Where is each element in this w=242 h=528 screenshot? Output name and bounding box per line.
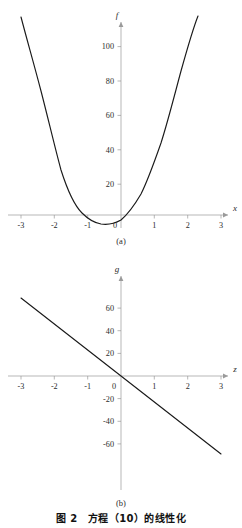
chart-a-svg: -3 -2 -1 0 1 2 3 20 40 60 80 100 x f bbox=[0, 0, 242, 232]
chart-a-xlabel: x bbox=[232, 203, 237, 213]
chart-a-y-axis-arrow bbox=[119, 22, 124, 27]
chart-b-ylabel: g bbox=[115, 264, 120, 274]
chart-b-x-axis-arrow bbox=[223, 374, 228, 379]
chart-b-origin-label: 0 bbox=[112, 382, 116, 391]
chart-a-yticklabel: 40 bbox=[106, 146, 114, 155]
figure-caption: 图 2 方程（10）的线性化 bbox=[0, 510, 242, 525]
chart-a-xticklabel: 2 bbox=[186, 221, 190, 230]
chart-a-yticklabel: 20 bbox=[106, 180, 114, 189]
chart-a-xticklabel: -3 bbox=[18, 221, 25, 230]
chart-b-y-axis-arrow bbox=[119, 276, 124, 281]
chart-a-nonlinear-function: -3 -2 -1 0 1 2 3 20 40 60 80 100 x f bbox=[0, 0, 242, 232]
chart-b-xticklabel: -3 bbox=[18, 382, 25, 391]
chart-b-xticklabel: -2 bbox=[51, 382, 58, 391]
chart-b-yticklabel: -60 bbox=[103, 440, 114, 449]
chart-a-yticklabel: 100 bbox=[102, 42, 114, 51]
chart-a-xticklabel: -1 bbox=[84, 221, 91, 230]
chart-a-yticklabel: 80 bbox=[106, 77, 114, 86]
chart-b-xticklabel: 1 bbox=[152, 382, 156, 391]
chart-b-yticklabel: 40 bbox=[106, 327, 114, 336]
chart-a-xticklabel: 3 bbox=[219, 221, 223, 230]
chart-b-linearized-function: -3 -2 -1 1 2 3 0 60 40 20 -20 -40 -60 z … bbox=[0, 262, 242, 494]
chart-b-xticklabel: 3 bbox=[219, 382, 223, 391]
chart-b-xlabel: z bbox=[232, 364, 237, 374]
subcaption-a: (a) bbox=[0, 236, 242, 246]
chart-b-yticklabel: 20 bbox=[106, 349, 114, 358]
chart-a-xticklabel: -2 bbox=[51, 221, 58, 230]
chart-a-yticklabel: 60 bbox=[106, 111, 114, 120]
chart-b-xticklabel: 2 bbox=[186, 382, 190, 391]
chart-b-svg: -3 -2 -1 1 2 3 0 60 40 20 -20 -40 -60 z … bbox=[0, 262, 242, 494]
chart-b-yticklabel: -20 bbox=[103, 395, 114, 404]
figure-container: -3 -2 -1 0 1 2 3 20 40 60 80 100 x f (a) bbox=[0, 0, 242, 528]
chart-b-yticklabel: -40 bbox=[103, 417, 114, 426]
chart-b-yticklabel: 60 bbox=[106, 304, 114, 313]
chart-a-xticklabel: 1 bbox=[152, 221, 156, 230]
subcaption-b: (b) bbox=[0, 498, 242, 508]
chart-a-x-axis-arrow bbox=[223, 213, 228, 218]
chart-a-ylabel: f bbox=[116, 10, 120, 20]
chart-b-xticklabel: -1 bbox=[84, 382, 91, 391]
